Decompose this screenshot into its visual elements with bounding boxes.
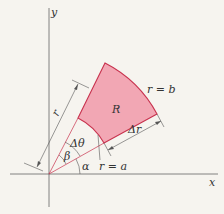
- delta-r-label: Δr: [127, 123, 142, 136]
- inner-arc-label: r = a: [99, 160, 127, 173]
- alpha-label: α: [82, 160, 90, 173]
- alpha-arc: [76, 159, 80, 174]
- arrowhead: [37, 161, 41, 167]
- region-label: R: [111, 103, 120, 116]
- diagram-svg: y x R r = b r = a Δr Δθ β α r: [0, 0, 224, 214]
- arrowhead: [155, 121, 161, 125]
- r-eq-a-leader: [98, 135, 100, 160]
- beta-label: β: [63, 150, 70, 163]
- polar-region-diagram: y x R r = b r = a Δr Δθ β α r: [0, 0, 224, 214]
- outer-arc-label: r = b: [147, 83, 176, 96]
- x-axis-label: x: [209, 176, 216, 189]
- radius-label: r: [49, 107, 63, 118]
- radius-extension-top: [72, 80, 89, 88]
- radius-dimension-line: [37, 84, 78, 167]
- arrowhead: [108, 146, 114, 150]
- delta-r-extension-outer: [157, 114, 164, 127]
- y-axis-label: y: [50, 6, 58, 19]
- radius-extension-bottom: [24, 163, 43, 171]
- delta-theta-label: Δθ: [69, 137, 85, 150]
- arrowhead: [74, 84, 78, 90]
